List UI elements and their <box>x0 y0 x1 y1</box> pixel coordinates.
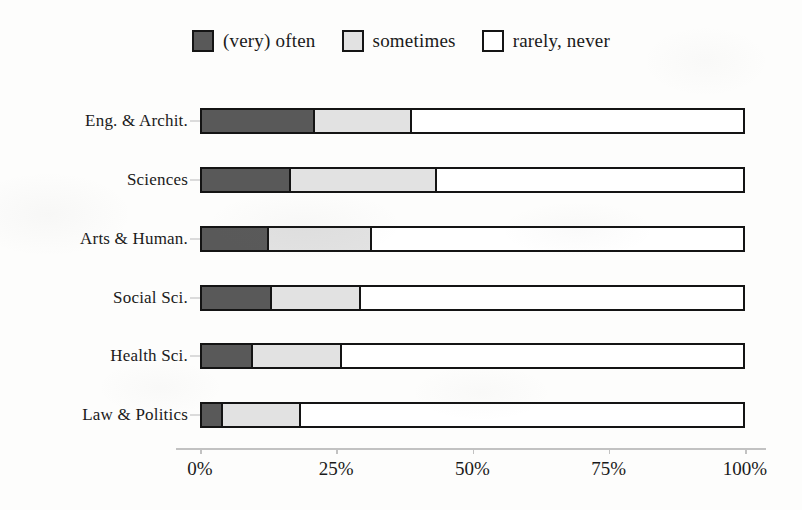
x-axis-tick <box>745 448 747 454</box>
legend-item[interactable]: sometimes <box>342 30 456 52</box>
x-axis-tick <box>609 448 611 454</box>
category-label: Health Sci. <box>110 346 188 366</box>
x-axis-line <box>176 448 766 450</box>
bar-segment[interactable] <box>267 228 370 250</box>
bar-segment[interactable] <box>289 169 435 191</box>
category-label: Eng. & Archit. <box>85 111 188 131</box>
x-axis-tick-label: 25% <box>319 458 354 480</box>
bar-segment[interactable] <box>410 110 743 132</box>
x-axis-tick-label: 100% <box>723 458 767 480</box>
bar-segment[interactable] <box>313 110 410 132</box>
bar-segment[interactable] <box>270 287 359 309</box>
x-axis-tick <box>336 448 338 454</box>
bar-segment[interactable] <box>202 287 270 309</box>
category-tick-connector <box>190 180 200 181</box>
legend-item-label: sometimes <box>373 30 456 52</box>
x-axis-tick-label: 0% <box>187 458 212 480</box>
category-tick-connector <box>190 298 200 299</box>
bar-segment[interactable] <box>251 345 340 367</box>
legend-item-label: (very) often <box>223 30 316 52</box>
legend-swatch-icon <box>342 30 364 52</box>
legend-item[interactable]: (very) often <box>192 30 316 52</box>
stacked-bar[interactable] <box>200 167 745 193</box>
legend-swatch-icon <box>192 30 214 52</box>
bar-segment[interactable] <box>370 228 743 250</box>
legend-item[interactable]: rarely, never <box>482 30 610 52</box>
chart-plot-area: Eng. & Archit.SciencesArts & Human.Socia… <box>0 0 802 510</box>
x-axis-tick-label: 50% <box>455 458 490 480</box>
bar-segment[interactable] <box>202 110 313 132</box>
bar-segment[interactable] <box>340 345 743 367</box>
category-label: Sciences <box>127 170 188 190</box>
x-axis-tick-label: 75% <box>591 458 626 480</box>
chart-legend: (very) oftensometimesrarely, never <box>0 30 802 52</box>
stacked-bar[interactable] <box>200 343 745 369</box>
legend-item-label: rarely, never <box>513 30 610 52</box>
stacked-bar[interactable] <box>200 226 745 252</box>
category-tick-connector <box>190 415 200 416</box>
x-axis-tick <box>200 448 202 454</box>
bar-segment[interactable] <box>299 404 743 426</box>
chart-figure: (very) oftensometimesrarely, never Eng. … <box>0 0 802 510</box>
stacked-bar[interactable] <box>200 402 745 428</box>
category-label: Social Sci. <box>113 288 188 308</box>
bar-segment[interactable] <box>359 287 743 309</box>
x-axis-tick <box>473 448 475 454</box>
bar-segment[interactable] <box>221 404 299 426</box>
bar-segment[interactable] <box>202 345 251 367</box>
category-tick-connector <box>190 239 200 240</box>
stacked-bar[interactable] <box>200 108 745 134</box>
category-label: Arts & Human. <box>80 229 188 249</box>
legend-swatch-icon <box>482 30 504 52</box>
category-tick-connector <box>190 121 200 122</box>
category-label: Law & Politics <box>82 405 188 425</box>
bar-segment[interactable] <box>202 404 221 426</box>
bar-segment[interactable] <box>202 228 267 250</box>
category-tick-connector <box>190 356 200 357</box>
bar-segment[interactable] <box>435 169 743 191</box>
stacked-bar[interactable] <box>200 285 745 311</box>
bar-segment[interactable] <box>202 169 289 191</box>
